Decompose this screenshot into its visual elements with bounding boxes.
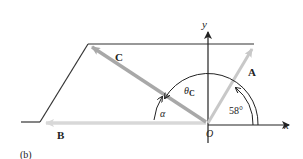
vector-b-label: B: [57, 129, 65, 141]
alpha-label: α: [160, 108, 166, 119]
x-axis-label: x: [283, 119, 289, 131]
angle-58-label: 58°: [229, 105, 243, 116]
panel-label: (b): [20, 149, 32, 159]
y-axis-label: y: [201, 18, 207, 30]
construction-lines: [21, 44, 254, 122]
theta-c-label: θC: [184, 85, 195, 98]
vector-a-label: A: [248, 66, 256, 78]
axes: [208, 32, 289, 143]
origin-label: O: [206, 128, 213, 139]
vector-c-label: C: [115, 51, 123, 63]
vector-diagram: y x O C A B θC α 58° (b): [0, 0, 303, 159]
